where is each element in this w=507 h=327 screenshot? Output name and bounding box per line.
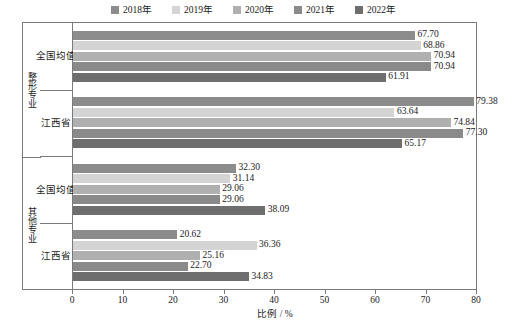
bar-2020年-江西省[interactable] [73, 118, 451, 127]
legend-swatch-icon [355, 6, 363, 14]
bar-value-label: 67.70 [417, 29, 438, 40]
bar-value-label: 70.94 [434, 61, 455, 72]
y-axis-category-1: 江西省 [40, 90, 72, 157]
bar-2021年-江西省[interactable] [73, 262, 188, 271]
bar-row: 20.62 [73, 230, 477, 239]
bar-2019年-全国均值[interactable] [73, 41, 421, 50]
bar-row: 25.16 [73, 251, 477, 260]
bar-group-1: 79.3863.6474.8477.3065.17 [73, 90, 477, 157]
y-axis-group-其他专业: 其他专业 [23, 157, 41, 291]
y-axis-group-labels: 整形专业其他专业 [22, 22, 40, 290]
x-axis-title: 比例 / % [72, 308, 478, 320]
bar-value-label: 61.91 [388, 71, 409, 82]
bar-2018年-江西省[interactable] [73, 230, 177, 239]
bar-2018年-江西省[interactable] [73, 97, 474, 106]
bar-2022年-江西省[interactable] [73, 139, 402, 148]
legend-item-label: 2020年 [245, 5, 274, 15]
y-axis-category-label: 江西省 [41, 251, 71, 262]
bar-2022年-全国均值[interactable] [73, 73, 386, 82]
bar-value-label: 68.86 [423, 40, 444, 51]
x-tick-label: 10 [118, 294, 128, 306]
bar-2019年-江西省[interactable] [73, 241, 257, 250]
y-axis-group-label: 整形专业 [27, 72, 37, 108]
bar-value-label: 70.94 [434, 50, 455, 61]
bar-2019年-江西省[interactable] [73, 108, 394, 117]
bar-value-label: 36.36 [259, 239, 280, 250]
bar-row: 77.30 [73, 129, 477, 138]
y-axis-category-0: 全国均值 [40, 23, 72, 90]
bar-value-label: 29.06 [222, 183, 243, 194]
bar-group-3: 20.6236.3625.1622.7034.83 [73, 223, 477, 290]
bar-row: 29.06 [73, 185, 477, 194]
y-axis-category-3: 江西省 [40, 223, 72, 290]
legend-item-label: 2022年 [367, 5, 396, 15]
bar-2020年-全国均值[interactable] [73, 185, 220, 194]
bar-value-label: 25.16 [203, 250, 224, 261]
bar-row: 68.86 [73, 41, 477, 50]
bar-row: 74.84 [73, 118, 477, 127]
bar-2021年-全国均值[interactable] [73, 62, 431, 71]
bar-value-label: 79.38 [476, 96, 497, 107]
bar-value-label: 22.70 [190, 260, 211, 271]
legend-item-2022年[interactable]: 2022年 [355, 5, 396, 15]
bar-row: 65.17 [73, 139, 477, 148]
bar-row: 36.36 [73, 241, 477, 250]
y-axis-category-labels: 全国均值江西省全国均值江西省 [40, 22, 72, 290]
bar-row: 61.91 [73, 73, 477, 82]
y-axis-group-label: 其他专业 [27, 207, 37, 243]
legend-item-2021年[interactable]: 2021年 [294, 5, 335, 15]
bar-value-label: 29.06 [222, 194, 243, 205]
legend-swatch-icon [172, 6, 180, 14]
legend-item-2020年[interactable]: 2020年 [233, 5, 274, 15]
x-tick-label: 80 [471, 294, 481, 306]
bar-2021年-江西省[interactable] [73, 129, 463, 138]
legend-swatch-icon [111, 6, 119, 14]
bar-2022年-江西省[interactable] [73, 272, 249, 281]
bar-value-label: 74.84 [453, 117, 474, 128]
bar-row: 38.09 [73, 206, 477, 215]
x-tick-label: 50 [320, 294, 330, 306]
x-tick-label: 70 [421, 294, 431, 306]
bar-value-label: 31.14 [233, 173, 254, 184]
legend-item-2018年[interactable]: 2018年 [111, 5, 152, 15]
bar-row: 32.30 [73, 164, 477, 173]
bar-2020年-全国均值[interactable] [73, 52, 431, 61]
bar-value-label: 34.83 [251, 271, 272, 282]
legend-item-label: 2018年 [123, 5, 152, 15]
bar-value-label: 38.09 [268, 204, 289, 215]
bar-row: 79.38 [73, 97, 477, 106]
bar-value-label: 77.30 [466, 127, 487, 138]
bar-row: 70.94 [73, 52, 477, 61]
bar-value-label: 65.17 [405, 138, 426, 149]
bar-row: 70.94 [73, 62, 477, 71]
x-tick-label: 40 [269, 294, 279, 306]
legend-swatch-icon [233, 6, 241, 14]
bar-2020年-江西省[interactable] [73, 251, 200, 260]
y-axis-category-label: 全国均值 [36, 51, 76, 62]
y-axis-category-label: 全国均值 [36, 185, 76, 196]
bar-row: 63.64 [73, 108, 477, 117]
bar-value-label: 32.30 [239, 162, 260, 173]
bar-2018年-全国均值[interactable] [73, 31, 415, 40]
bar-group-0: 67.7068.8670.9470.9461.91 [73, 23, 477, 90]
x-tick-label: 0 [70, 294, 75, 306]
chart-legend: 2018年2019年2020年2021年2022年 [0, 2, 507, 18]
bar-2018年-全国均值[interactable] [73, 164, 236, 173]
bar-value-label: 63.64 [397, 106, 418, 117]
legend-item-label: 2019年 [184, 5, 213, 15]
x-tick-label: 60 [370, 294, 380, 306]
bar-row: 29.06 [73, 195, 477, 204]
y-axis-group-整形专业: 整形专业 [23, 23, 41, 157]
bar-2019年-全国均值[interactable] [73, 174, 230, 183]
bar-2021年-全国均值[interactable] [73, 195, 220, 204]
bar-chart: 2018年2019年2020年2021年2022年 整形专业其他专业 全国均值江… [0, 0, 507, 327]
legend-swatch-icon [294, 6, 302, 14]
bar-2022年-全国均值[interactable] [73, 206, 265, 215]
bar-row: 31.14 [73, 174, 477, 183]
x-axis-tick-labels: 01020304050607080 [0, 294, 507, 308]
bar-row: 67.70 [73, 31, 477, 40]
x-tick-label: 20 [168, 294, 178, 306]
legend-item-2019年[interactable]: 2019年 [172, 5, 213, 15]
bar-group-2: 32.3031.1429.0629.0638.09 [73, 156, 477, 223]
bar-row: 22.70 [73, 262, 477, 271]
